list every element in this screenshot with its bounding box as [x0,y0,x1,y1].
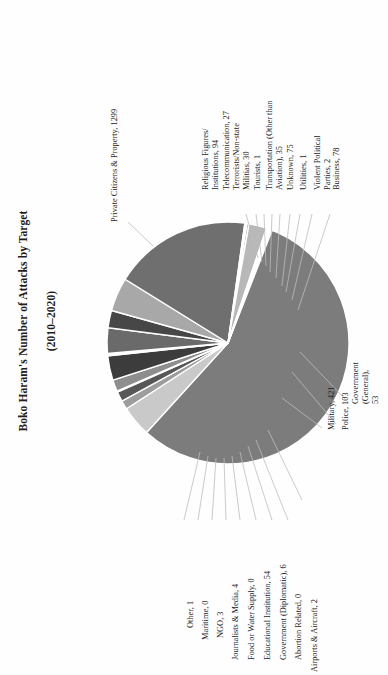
slice-label-tourists: Tourists, 1 [253,155,263,190]
slice-label-telecommunication: Telecommunication, 27 [222,111,232,190]
slice-label-journalists: Journalists & Media, 4 [231,584,241,660]
slice-label-police: Police, 103 [341,392,351,430]
leader-line [184,452,200,520]
slice-label-transportation: Transportation (Other than Aviation), 35 [265,101,285,190]
slice-label-maritime: Maritime, 0 [201,600,211,640]
slice-label-educational: Educational Institution, 54 [263,571,273,660]
leader-line [212,458,216,520]
slice-label-terrorists: Terrorists/Non-state Militias, 30 [232,123,252,190]
slice-label-unknown: Unknown, 75 [286,144,296,190]
leader-line [128,222,153,246]
slice-label-military: Military, 421 [327,386,337,430]
slice-label-violent-political: Violent Political Parties, 2 [313,115,333,190]
leader-line [224,458,226,520]
slice-label-religious-figures: Religious Figures/ Institutions, 94 [201,128,221,190]
slice-label-government-diplomatic: Government (Diplomatic), 6 [279,564,289,660]
slice-label-abortion: Abortion Related, 0 [294,594,304,660]
chart-canvas: Boko Haram's Number of Attacks by Target… [0,0,388,675]
slice-label-private-citizens: Private Citizens & Property, 1299 [110,109,120,222]
slice-label-utilities: Utilities, 1 [299,155,309,190]
leader-line [232,456,240,520]
pie-svg [0,0,388,675]
slice-label-other: Other, 1 [186,601,196,628]
slice-label-ngo: NGO, 3 [216,611,226,638]
leader-line [198,456,208,520]
slice-label-government-general: Government (General), 53 [351,362,382,404]
slice-label-business: Business, 78 [332,148,342,190]
slice-label-airports: Airports & Aircraft, 2 [310,599,320,672]
slice-label-food-water: Food or Water Supply, 0 [247,578,257,660]
pie-chart [0,0,388,675]
